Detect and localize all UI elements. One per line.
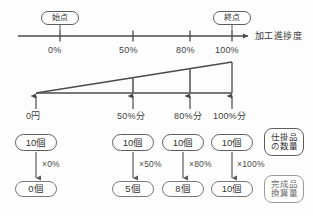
axis-tick-label-50: 50% — [119, 46, 138, 55]
axis-start-marker: 始点 — [41, 11, 79, 25]
result-chip-0-label: 0個 — [28, 184, 43, 194]
legend-equivalent-units: 完成品 換算量 — [264, 175, 304, 203]
cost-label-100: 100%分 — [213, 112, 246, 121]
axis-start-marker-label: 始点 — [52, 14, 69, 22]
quantity-chip-80-label: 10個 — [173, 138, 194, 148]
quantity-chip-50: 10個 — [112, 134, 154, 151]
result-chip-50: 5個 — [112, 181, 154, 197]
quantity-chip-50-label: 10個 — [123, 138, 144, 148]
cost-pointer-arrows — [36, 96, 232, 109]
axis-title: 加工進捗度 — [255, 32, 302, 41]
multiplier-label-50: ×50% — [139, 160, 162, 169]
cost-label-80: 80%分 — [174, 112, 202, 121]
cost-label-50: 50%分 — [117, 112, 145, 121]
cost-wedge — [36, 62, 232, 93]
multiplier-label-100: ×100% — [237, 160, 265, 169]
wedge-hypotenuse — [36, 62, 232, 93]
legend-wip-quantity: 仕掛品 の数量 — [264, 128, 304, 156]
quantity-chip-80: 10個 — [162, 134, 204, 151]
legend-wip-quantity-line2: の数量 — [271, 142, 298, 151]
result-chip-100-label: 10個 — [222, 184, 243, 194]
progress-axis — [18, 24, 248, 42]
quantity-chip-0-label: 10個 — [26, 138, 47, 148]
result-chip-80-label: 8個 — [175, 184, 190, 194]
result-chip-100: 10個 — [211, 181, 253, 197]
axis-end-marker: 終点 — [213, 11, 251, 25]
quantity-chip-100-label: 10個 — [222, 138, 243, 148]
cost-label-0: 0円 — [26, 112, 40, 121]
multiplier-label-0: ×0% — [42, 160, 60, 169]
quantity-chip-0: 10個 — [15, 134, 57, 151]
result-chip-0: 0個 — [15, 181, 57, 197]
quantity-chip-100: 10個 — [211, 134, 253, 151]
legend-equivalent-units-line2: 換算量 — [271, 189, 298, 198]
result-chip-80: 8個 — [162, 181, 204, 197]
axis-end-marker-label: 終点 — [224, 14, 241, 22]
axis-tick-label-100: 100% — [215, 46, 239, 55]
axis-tick-label-0: 0% — [48, 46, 61, 55]
axis-tick-label-80: 80% — [176, 46, 195, 55]
result-chip-50-label: 5個 — [125, 184, 140, 194]
diagram-canvas: 始点 終点 加工進捗度 0% 50% 80% 100% 0円 50%分 80%分… — [0, 0, 313, 216]
multiplier-label-80: ×80% — [189, 160, 212, 169]
